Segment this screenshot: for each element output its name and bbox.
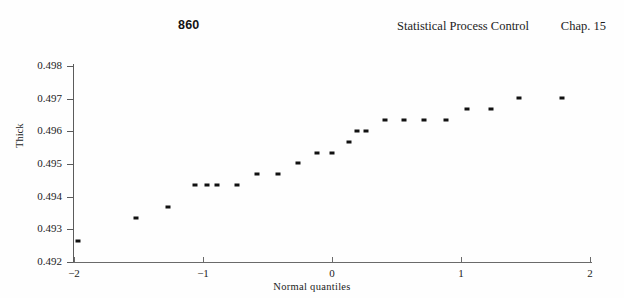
data-point [275, 173, 280, 176]
y-axis-tick-label: 0.496 [37, 124, 62, 136]
x-axis-label-text: Normal quantiles [273, 281, 350, 292]
x-axis-label: Normal quantiles [0, 281, 624, 292]
plot-data-area [74, 66, 590, 262]
data-point [346, 140, 351, 143]
data-point [215, 184, 220, 187]
x-axis-tick-label: 1 [458, 267, 464, 279]
data-point [330, 151, 335, 154]
y-axis-tick-label: 0.494 [37, 190, 62, 202]
data-point [133, 216, 138, 219]
data-point [443, 118, 448, 121]
y-axis-tick-label: 0.493 [37, 222, 62, 234]
y-axis-tick-label: 0.497 [37, 92, 62, 104]
y-axis-tick: 0.496 [67, 131, 73, 132]
data-point [517, 97, 522, 100]
y-axis-label: Thick [14, 124, 25, 149]
x-axis-tick-label: 2 [587, 267, 593, 279]
data-point [363, 129, 368, 132]
data-point [166, 206, 171, 209]
y-axis-tick-label: 0.495 [37, 157, 62, 169]
data-point [402, 118, 407, 121]
data-point [296, 162, 301, 165]
data-point [354, 129, 359, 132]
x-axis-tick-label: −1 [197, 267, 209, 279]
y-axis-tick: 0.497 [67, 99, 73, 100]
data-point [314, 151, 319, 154]
data-point [559, 97, 564, 100]
y-axis-tick-label: 0.492 [37, 255, 62, 267]
x-axis-tick-label: 0 [329, 267, 335, 279]
data-point [204, 184, 209, 187]
normal-quantile-plot: 0.4920.4930.4940.4950.4960.4970.498 −2−1… [0, 0, 624, 298]
data-point [75, 239, 80, 242]
data-point [234, 184, 239, 187]
data-point [193, 184, 198, 187]
y-axis-tick: 0.492 [67, 262, 73, 263]
data-point [488, 108, 493, 111]
x-axis-tick [590, 257, 591, 263]
y-axis-tick: 0.494 [67, 197, 73, 198]
data-point [421, 118, 426, 121]
data-point [465, 108, 470, 111]
data-point [382, 118, 387, 121]
y-axis-tick: 0.498 [67, 66, 73, 67]
data-point [255, 173, 260, 176]
x-axis-tick-label: −2 [68, 267, 80, 279]
y-axis-tick: 0.495 [67, 164, 73, 165]
y-axis-tick-label: 0.498 [37, 59, 62, 71]
y-axis-tick: 0.493 [67, 229, 73, 230]
